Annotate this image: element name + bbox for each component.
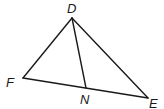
segment-df <box>23 18 72 78</box>
vertex-label-d: D <box>67 1 76 16</box>
point-label-n: N <box>80 92 90 107</box>
vertex-label-f: F <box>6 75 15 90</box>
segment-de <box>72 18 148 98</box>
vertex-label-e: E <box>149 96 158 109</box>
segment-dn <box>72 18 86 88</box>
triangle-diagram: D F N E <box>0 0 164 109</box>
